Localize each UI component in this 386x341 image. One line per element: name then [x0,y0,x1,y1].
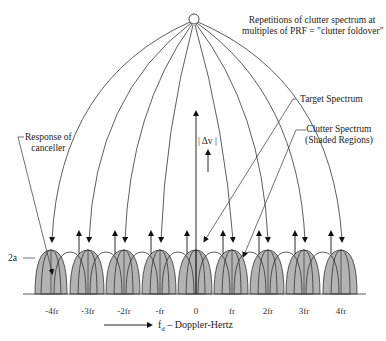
canceller-response-label: Response of canceller [25,132,72,154]
canceller-label-line1: Response of [25,132,72,143]
doppler-axis-label: fd – Doppler-Hertz [158,319,233,335]
two-a-label: 2a [8,253,17,264]
tick-4fr: 4fr [336,306,347,316]
delta-v-label: | Δv | [198,136,217,147]
foldover-note-line2: multiples of PRF = "clutter foldover" [242,26,382,37]
canceller-label-line2: canceller [25,143,72,154]
tick-minus-fr: -fr [156,306,165,316]
origin-circle [189,14,199,24]
clutter-leader [244,130,306,255]
tick-zero: 0 [194,306,199,316]
canceller-leader [18,137,52,272]
foldover-note: Repetitions of clutter spectrum at multi… [242,15,382,37]
tick-fr: fr [229,306,235,316]
tick-minus-4fr: -4fr [45,306,59,316]
target-leader [205,99,296,240]
axis-doppler-hertz: – Doppler-Hertz [165,319,233,330]
tick-minus-2fr: -2fr [117,306,131,316]
tick-3fr: 3fr [299,306,310,316]
clutter-spectrum-label: Clutter Spectrum (Shaded Regions) [305,124,373,146]
target-spectrum-label: Target Spectrum [300,94,363,105]
target-arrows [79,233,331,254]
clutter-label-line1: Clutter Spectrum [305,124,373,135]
foldover-note-line1: Repetitions of clutter spectrum at [242,15,382,26]
clutter-label-line2: (Shaded Regions) [305,135,373,146]
tick-minus-3fr: -3fr [81,306,95,316]
tick-2fr: 2fr [263,306,274,316]
clutter-foldover-diagram [0,0,386,341]
foldover-lines [52,22,342,240]
